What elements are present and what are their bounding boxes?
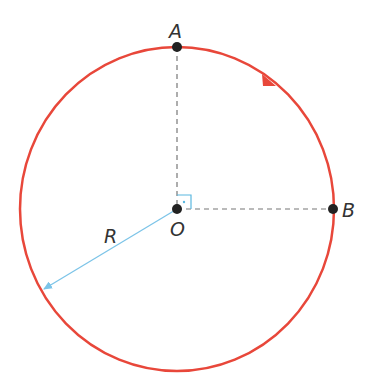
label-O: O <box>170 220 185 239</box>
label-B: B <box>342 201 355 220</box>
right-angle-dot <box>183 201 185 203</box>
circle-diagram <box>0 0 374 391</box>
point-A <box>172 42 182 52</box>
radius-arrow <box>44 209 177 289</box>
label-A: A <box>169 22 182 41</box>
label-R: R <box>104 227 117 246</box>
point-O <box>172 204 182 214</box>
point-B <box>328 204 338 214</box>
